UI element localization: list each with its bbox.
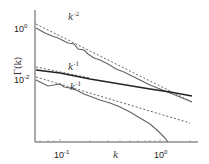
middle-fit-line: [36, 67, 90, 78]
middle-data-line: [36, 70, 192, 96]
annotation-k-minus-1-middle: k-1: [68, 60, 79, 72]
x-tick-label-2: 100: [154, 149, 168, 160]
y-axis-label: Γ(k): [13, 57, 23, 76]
x-tick-label-1: 10-1: [54, 149, 70, 160]
y-tick-label-1: 100: [14, 23, 28, 34]
top-fit-line: [36, 24, 192, 102]
top-data-line: [36, 28, 192, 102]
x-axis-label: k: [113, 150, 118, 160]
chart: 100 10-2 10-1 100 k Γ(k) k-2 k-1 k-1: [0, 0, 209, 164]
annotation-k-minus-2: k-2: [68, 10, 79, 22]
